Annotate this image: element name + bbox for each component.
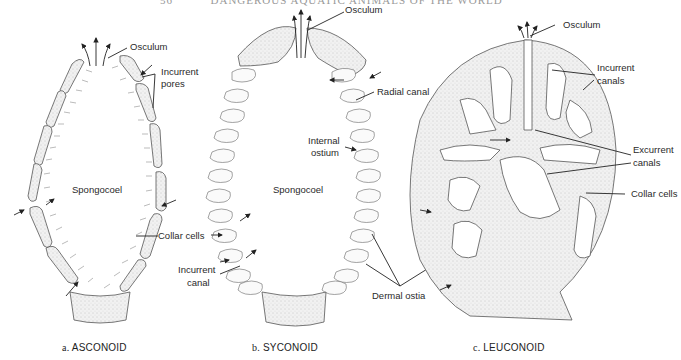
syconoid-incurrent-canal-label-2: canal bbox=[187, 277, 210, 288]
asconoid-incurrent-pores-label-1: Incurrent bbox=[161, 66, 199, 77]
caption-leuconoid: c. LEUCONOID bbox=[473, 342, 545, 353]
syconoid-osculum-label: Osculum bbox=[345, 4, 382, 15]
asconoid-incurrent-pores-label-2: pores bbox=[161, 78, 185, 89]
caption-text: SYCONOID bbox=[263, 342, 318, 353]
leuconoid-excurrent-canals-label-2: canals bbox=[633, 157, 660, 168]
syconoid-incurrent-canal-label-1: Incurrent bbox=[178, 264, 216, 275]
asconoid-collar-cells-label: Collar cells bbox=[158, 230, 204, 241]
sponge-diagram bbox=[0, 0, 681, 360]
caption-prefix: c. bbox=[473, 342, 480, 353]
syconoid-internal-ostium-label-1: Internal bbox=[308, 135, 340, 146]
syconoid-internal-ostium-label-2: ostium bbox=[311, 147, 339, 158]
caption-text: LEUCONOID bbox=[483, 342, 544, 353]
leuconoid-figure bbox=[410, 40, 616, 320]
leuconoid-osculum-label: Osculum bbox=[563, 19, 600, 30]
asconoid-spongocoel-label: Spongocoel bbox=[72, 184, 122, 195]
caption-prefix: a. bbox=[62, 342, 69, 353]
caption-text: ASCONOID bbox=[72, 342, 127, 353]
leuconoid-collar-cells-label: Collar cells bbox=[631, 188, 677, 199]
syconoid-spongocoel-label: Spongocoel bbox=[273, 184, 323, 195]
syconoid-dermal-ostia-label: Dermal ostia bbox=[372, 290, 425, 301]
leuconoid-incurrent-canals-label-1: Incurrent bbox=[597, 62, 635, 73]
caption-asconoid: a. ASCONOID bbox=[62, 342, 127, 353]
leuconoid-incurrent-canals-label-2: canals bbox=[597, 75, 624, 86]
asconoid-osculum-label: Osculum bbox=[130, 41, 167, 52]
syconoid-figure bbox=[206, 27, 380, 326]
caption-syconoid: b. SYCONOID bbox=[252, 342, 318, 353]
leuconoid-excurrent-canals-label-1: Excurrent bbox=[633, 144, 674, 155]
caption-prefix: b. bbox=[252, 342, 260, 353]
syconoid-radial-canal-label: Radial canal bbox=[377, 86, 429, 97]
